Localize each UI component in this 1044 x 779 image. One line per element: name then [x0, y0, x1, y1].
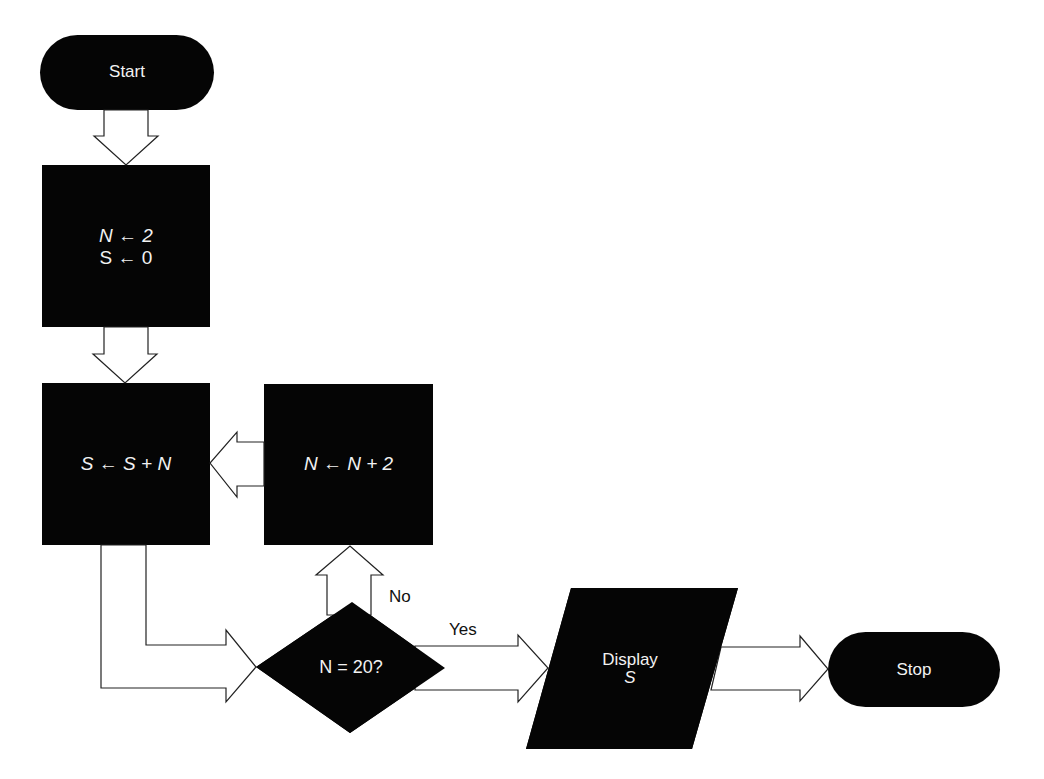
init-line-2: S ← 0 — [42, 247, 210, 269]
init-line-1: N ← 2 — [42, 225, 210, 247]
increment-label: N ← N + 2 — [264, 453, 433, 475]
edge-label-yes: Yes — [449, 620, 477, 640]
init-label: N ← 2 S ← 0 — [42, 225, 210, 269]
start-label: Start — [40, 62, 214, 82]
decision-label: N = 20? — [256, 657, 446, 678]
accumulate-text: S ← S + N — [81, 453, 171, 474]
display-line-2: S — [560, 669, 700, 687]
arrow-init-to-accumulate — [93, 327, 157, 383]
decision-text: N = 20? — [319, 657, 383, 677]
arrow-display-to-stop — [711, 636, 828, 701]
arrow-increment-to-accumulate — [210, 432, 264, 497]
display-line-2-text: S — [624, 668, 635, 687]
arrow-accumulate-to-decision — [101, 545, 256, 702]
display-label: Display S — [560, 651, 700, 687]
init-line-1-text: N ← 2 — [99, 225, 153, 246]
stop-label: Stop — [828, 660, 1000, 680]
increment-text: N ← N + 2 — [304, 453, 393, 474]
display-line-1: Display — [560, 651, 700, 669]
stop-text: Stop — [897, 660, 932, 679]
arrow-start-to-init — [94, 110, 158, 165]
edge-label-no: No — [389, 587, 411, 607]
accumulate-label: S ← S + N — [42, 453, 210, 475]
start-text: Start — [109, 62, 145, 81]
